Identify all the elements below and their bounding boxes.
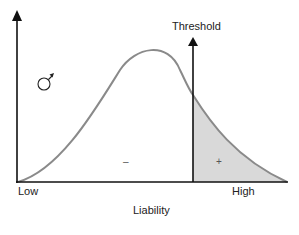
x-axis-high-label: High — [232, 186, 255, 197]
affected-region-sign: + — [216, 157, 222, 167]
male-symbol-icon — [38, 76, 52, 90]
liability-diagram — [0, 0, 299, 235]
y-axis-arrow-icon — [12, 10, 22, 21]
threshold-arrow-icon — [188, 37, 198, 46]
unaffected-region-sign: – — [123, 157, 129, 167]
x-axis-low-label: Low — [18, 186, 38, 197]
affected-shaded-area — [193, 95, 287, 182]
threshold-label: Threshold — [172, 21, 221, 32]
x-axis-title: Liability — [133, 205, 170, 216]
